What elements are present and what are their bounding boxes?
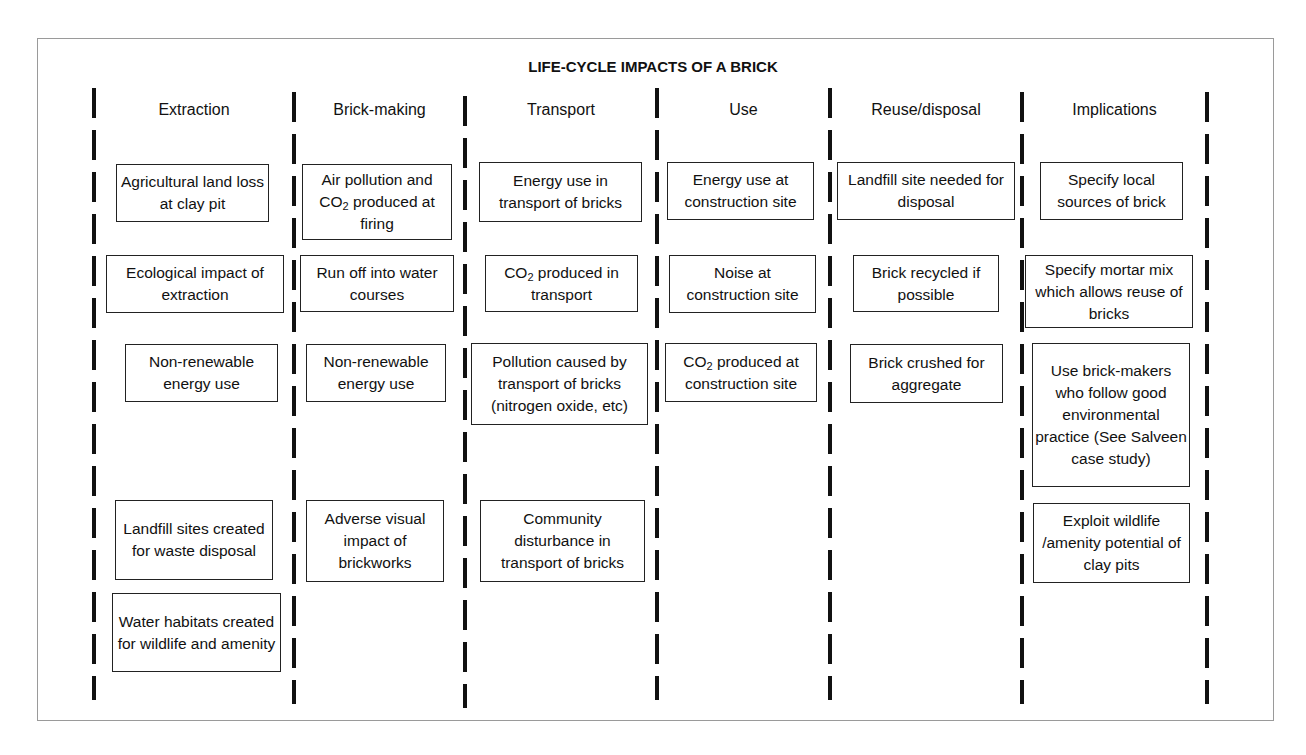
column-header-brick-making: Brick-making — [296, 101, 463, 119]
impact-box: Landfill site needed for disposal — [837, 162, 1015, 220]
impact-text: Energy use in transport of bricks — [482, 170, 639, 214]
impact-text: Pollution caused by transport of bricks … — [474, 351, 645, 417]
impact-box: Pollution caused by transport of bricks … — [471, 343, 648, 425]
impact-box: Brick crushed for aggregate — [850, 344, 1003, 403]
impact-box: Brick recycled if possible — [853, 255, 999, 312]
impact-text: Landfill site needed for disposal — [840, 169, 1012, 213]
impact-box: Air pollution and CO2 produced at firing — [302, 164, 452, 240]
impact-text: Water habitats created for wildlife and … — [115, 611, 278, 655]
column-separator — [292, 92, 296, 704]
implication-text: Exploit wildlife /amenity potential of c… — [1036, 510, 1187, 576]
impact-text: Non-renewable energy use — [128, 351, 275, 395]
impact-box: Adverse visual impact of brickworks — [306, 500, 444, 582]
column-header-reuse-disposal: Reuse/disposal — [832, 101, 1020, 119]
impact-text: Landfill sites created for waste disposa… — [118, 518, 270, 562]
implication-box: Specify local sources of brick — [1040, 162, 1183, 220]
column-separator — [655, 88, 659, 700]
impact-box: Run off into water courses — [300, 255, 454, 312]
impact-box: Energy use in transport of bricks — [479, 162, 642, 222]
impact-box: Community disturbance in transport of br… — [480, 500, 645, 582]
column-separator — [1020, 92, 1024, 704]
impact-text: Community disturbance in transport of br… — [483, 508, 642, 574]
impact-box: CO2 produced at construction site — [665, 343, 817, 402]
impact-text: Non-renewable energy use — [309, 351, 443, 395]
impact-text: Brick recycled if possible — [856, 262, 996, 306]
diagram-title-text: LIFE-CYCLE IMPACTS OF A BRICK — [528, 58, 777, 75]
impact-box: Non-renewable energy use — [306, 344, 446, 402]
column-separator — [1205, 92, 1209, 704]
implication-box: Use brick-makers who follow good environ… — [1032, 343, 1190, 487]
impact-text: Run off into water courses — [303, 262, 451, 306]
diagram-title: LIFE-CYCLE IMPACTS OF A BRICK — [0, 58, 1306, 75]
column-header-extraction: Extraction — [96, 101, 292, 119]
implication-text: Specify mortar mix which allows reuse of… — [1028, 259, 1190, 325]
impact-box: Water habitats created for wildlife and … — [112, 593, 281, 672]
implication-text: Use brick-makers who follow good environ… — [1035, 360, 1187, 470]
impact-text: Energy use at construction site — [670, 169, 811, 213]
impact-text: Air pollution and CO2 produced at firing — [305, 169, 449, 235]
impact-box: Noise at construction site — [669, 255, 816, 313]
impact-box: Agricultural land loss at clay pit — [116, 164, 269, 222]
implication-box: Specify mortar mix which allows reuse of… — [1025, 255, 1193, 328]
impact-text: Adverse visual impact of brickworks — [309, 508, 441, 574]
column-header-use: Use — [659, 101, 828, 119]
column-header-implications: Implications — [1024, 101, 1205, 119]
impact-box: Ecological impact of extraction — [106, 255, 284, 313]
column-separator — [828, 88, 832, 700]
column-separator — [463, 96, 467, 708]
implication-text: Specify local sources of brick — [1043, 169, 1180, 213]
column-header-transport: Transport — [467, 101, 655, 119]
impact-text: Ecological impact of extraction — [109, 262, 281, 306]
impact-text: CO2 produced at construction site — [668, 351, 814, 395]
impact-text: CO2 produced in transport — [488, 262, 635, 306]
impact-box: Non-renewable energy use — [125, 344, 278, 402]
impact-box: Energy use at construction site — [667, 162, 814, 220]
impact-box: Landfill sites created for waste disposa… — [115, 500, 273, 580]
impact-text: Noise at construction site — [672, 262, 813, 306]
column-separator — [92, 88, 96, 700]
impact-box: CO2 produced in transport — [485, 255, 638, 312]
implication-box: Exploit wildlife /amenity potential of c… — [1033, 503, 1190, 583]
impact-text: Agricultural land loss at clay pit — [119, 171, 266, 215]
impact-text: Brick crushed for aggregate — [853, 352, 1000, 396]
